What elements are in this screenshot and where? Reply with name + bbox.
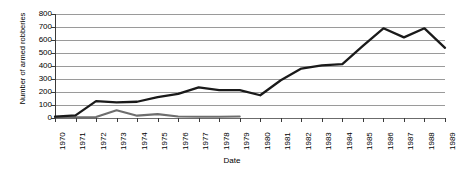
y-tick-300 [51, 79, 56, 80]
x-tick-label-1987: 1987 [407, 132, 415, 150]
x-tick-label-1982: 1982 [305, 132, 313, 150]
x-tick-label-1970: 1970 [59, 132, 67, 150]
y-tick-600 [51, 40, 56, 41]
y-tick-400 [51, 66, 56, 67]
y-tick-100 [51, 105, 56, 106]
x-tick-label-1975: 1975 [161, 132, 169, 150]
x-tick-label-1979: 1979 [243, 132, 251, 150]
x-tick-label-1986: 1986 [387, 132, 395, 150]
x-tick-label-1988: 1988 [428, 132, 436, 150]
x-axis-title: Date [0, 156, 464, 165]
x-tick-label-1971: 1971 [79, 132, 87, 150]
y-tick-800 [51, 14, 56, 15]
x-tick-label-1981: 1981 [284, 132, 292, 150]
x-tick-label-1976: 1976 [182, 132, 190, 150]
chart-container: Number of armed robberies 01002003004005… [0, 0, 464, 174]
y-tick-500 [51, 53, 56, 54]
x-tick-label-1983: 1983 [325, 132, 333, 150]
y-tick-700 [51, 27, 56, 28]
x-tick-label-1978: 1978 [223, 132, 231, 150]
x-tick-label-1985: 1985 [366, 132, 374, 150]
x-axis-tick-labels: 1970197119721973197419751976197719781979… [0, 0, 464, 174]
x-tick-label-1984: 1984 [346, 132, 354, 150]
x-tick-label-1973: 1973 [120, 132, 128, 150]
x-tick-label-1974: 1974 [141, 132, 149, 150]
y-tick-200 [51, 92, 56, 93]
x-tick-label-1980: 1980 [264, 132, 272, 150]
x-tick-label-1989: 1989 [449, 132, 457, 150]
x-tick-label-1977: 1977 [202, 132, 210, 150]
y-tick-0 [51, 118, 56, 119]
x-tick-label-1972: 1972 [100, 132, 108, 150]
